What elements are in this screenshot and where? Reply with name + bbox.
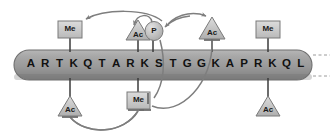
sequence-residue-13: G [194,58,208,70]
mark-shape-p-s10-top [145,22,163,41]
sequence-residue-16: P [237,58,251,70]
crosstalk-activation-arrows [86,11,206,27]
sequence-residue-2: R [38,58,52,70]
sequence-residue-8: R [123,58,137,70]
mark-shape-ac-k14-top [199,17,225,39]
mark-shape-ac-k4-bot [58,96,82,116]
sequence-residue-20: L [294,58,308,70]
mark-shape-me-k9-bot [127,92,150,109]
sequence-residue-11: T [166,58,180,70]
sequence-residue-9: K [138,58,152,70]
sequence-residue-7: A [109,58,123,70]
crosstalk-x4-p-to-ac14 [168,14,206,24]
sequence-residue-14: K [209,58,223,70]
sequence-residue-19: Q [280,58,294,70]
sequence-residue-3: T [52,58,66,70]
sequence-residue-5: Q [81,58,95,70]
sequence-residue-15: A [223,58,237,70]
sequence-residue-1: A [24,58,38,70]
mark-shape-me-k18-top [256,21,280,38]
histone-tail-diagram: Me Ac P Ac Me Ac Me Ac ARTKQTARKSTGGKAPR… [0,0,330,134]
sequence-residue-4: K [67,58,81,70]
sequence-residue-10: S [152,58,166,70]
sequence-residue-18: K [265,58,279,70]
sequence-residue-12: G [180,58,194,70]
sequence-residue-17: R [251,58,265,70]
sequence-residue-6: T [95,58,109,70]
mark-shape-me-k4-top [58,21,82,38]
mark-shape-ac-k18-bot [256,96,280,116]
